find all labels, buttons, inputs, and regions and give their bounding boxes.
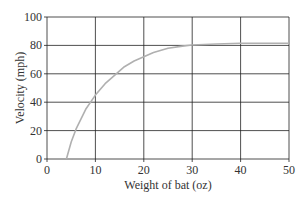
velocity-curve	[66, 43, 289, 159]
y-tick-label: 40	[30, 95, 42, 109]
x-tick-label: 10	[89, 163, 101, 177]
x-tick-label: 20	[138, 163, 150, 177]
y-tick-label: 60	[30, 67, 42, 81]
x-axis-ticks: 01020304050	[44, 163, 295, 177]
y-axis-label: Velocity (mph)	[13, 52, 27, 124]
x-tick-label: 30	[186, 163, 198, 177]
grid-lines	[44, 17, 289, 162]
x-axis-label: Weight of bat (oz)	[124, 178, 211, 192]
y-tick-label: 100	[24, 10, 42, 24]
y-tick-label: 20	[30, 124, 42, 138]
x-tick-label: 0	[44, 163, 50, 177]
y-tick-label: 0	[36, 152, 42, 166]
x-tick-label: 50	[283, 163, 295, 177]
line-chart: 01020304050 020406080100 Weight of bat (…	[0, 0, 306, 197]
x-tick-label: 40	[235, 163, 247, 177]
y-tick-label: 80	[30, 38, 42, 52]
